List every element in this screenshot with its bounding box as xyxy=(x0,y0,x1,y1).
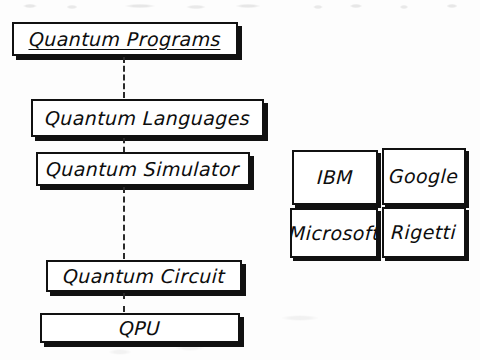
vendor-box-google[interactable]: Google xyxy=(382,148,466,205)
vendor-box-microsoft[interactable]: Microsoft xyxy=(290,208,378,258)
connector-circuit-to-qpu xyxy=(123,293,125,312)
connector-programs-to-languages xyxy=(123,57,125,98)
vendor-box-label: Microsoft xyxy=(290,224,378,243)
connector-simulator-to-circuit xyxy=(123,187,125,259)
vendor-box-label: Google xyxy=(389,167,459,186)
vendor-box-rigetti[interactable]: Rigetti xyxy=(382,207,466,258)
vendor-box-label: IBM xyxy=(316,168,353,187)
stack-box-label: QPU xyxy=(119,319,162,338)
stack-box-label: Quantum Circuit xyxy=(62,267,225,286)
stack-box-qpu[interactable]: QPU xyxy=(40,313,240,343)
vendor-box-label: Rigetti xyxy=(391,223,457,242)
stack-box-quantum-circuit[interactable]: Quantum Circuit xyxy=(46,260,242,292)
stack-box-label: Quantum Programs xyxy=(29,30,222,49)
vendor-box-ibm[interactable]: IBM xyxy=(292,150,378,205)
connector-languages-to-simulator xyxy=(123,138,125,152)
stack-box-quantum-programs[interactable]: Quantum Programs xyxy=(12,22,238,56)
scan-artifact-top xyxy=(0,0,480,16)
stack-box-quantum-languages[interactable]: Quantum Languages xyxy=(31,99,264,137)
stack-box-label: Quantum Simulator xyxy=(46,160,240,179)
stack-box-label: Quantum Languages xyxy=(44,109,250,128)
diagram-canvas: Quantum Programs Quantum Languages Quant… xyxy=(0,0,480,360)
stack-box-quantum-simulator[interactable]: Quantum Simulator xyxy=(36,152,250,186)
